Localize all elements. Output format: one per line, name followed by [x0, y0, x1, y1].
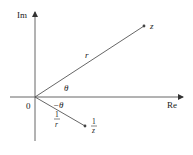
- svg-text:1: 1: [92, 117, 96, 126]
- point-z: [143, 25, 146, 28]
- z-label: z: [149, 21, 154, 31]
- svg-text:z: z: [91, 126, 95, 135]
- segment-origin-to-z: [35, 26, 144, 97]
- inverse-r-label: 1 r: [54, 110, 60, 129]
- inverse-z-label: 1 z: [91, 117, 97, 135]
- complex-plane-diagram: Im Re 0 z 1 z r 1 r θ −θ: [0, 0, 193, 155]
- point-inverse-z: [84, 125, 87, 128]
- origin-label: 0: [26, 101, 31, 111]
- real-axis-label: Re: [167, 100, 177, 110]
- r-label: r: [85, 50, 89, 60]
- imaginary-axis-label: Im: [17, 10, 27, 20]
- negative-theta-label: −θ: [53, 100, 64, 110]
- theta-label: θ: [64, 83, 69, 93]
- svg-text:1: 1: [55, 110, 59, 119]
- svg-text:r: r: [55, 120, 58, 129]
